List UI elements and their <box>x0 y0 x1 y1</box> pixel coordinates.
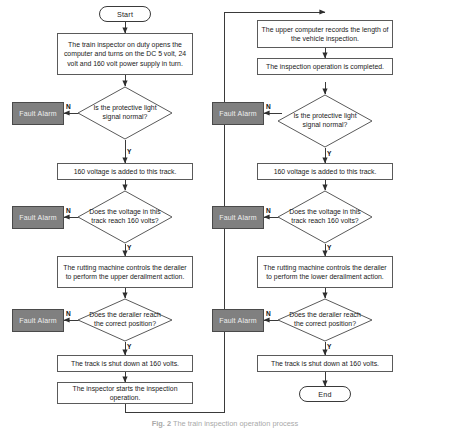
left-decision-voltage-yes-label: Y <box>127 244 131 251</box>
left-decision-light-signal: Is the protective light signal normal? <box>77 86 173 140</box>
left-step-start-inspection: The inspector starts the inspection oper… <box>57 382 193 404</box>
right-fault-alarm-3: Fault Alarm <box>212 309 264 332</box>
left-decision-derailer-label: Does the derailer reach the correct posi… <box>77 298 173 342</box>
right-step-add-160: 160 voltage is added to this track. <box>257 163 393 180</box>
right-decision-voltage-label: Does the voltage in this track reach 160… <box>277 190 373 244</box>
left-step-shut-down: The track is shut down at 160 volts. <box>57 355 193 372</box>
right-decision-voltage: Does the voltage in this track reach 160… <box>277 190 373 244</box>
right-fault-alarm-2: Fault Alarm <box>212 206 264 229</box>
right-decision-voltage-yes-label: Y <box>327 244 331 251</box>
left-step-add-160: 160 voltage is added to this track. <box>57 163 193 180</box>
left-decision-light-signal-no-label: N <box>66 103 71 110</box>
left-decision-derailer-no-label: N <box>66 310 71 317</box>
left-decision-derailer-yes-label: Y <box>127 343 131 350</box>
end-node: End <box>299 386 351 402</box>
right-decision-light-signal-no-label: N <box>266 103 271 110</box>
right-decision-voltage-no-label: N <box>266 207 271 214</box>
left-decision-light-signal-label: Is the protective light signal normal? <box>77 86 173 140</box>
right-step-shut-down: The track is shut down at 160 volts. <box>257 355 393 372</box>
left-fault-alarm-2: Fault Alarm <box>12 206 64 229</box>
right-decision-derailer-yes-label: Y <box>327 343 331 350</box>
left-step-rutting-machine: The rutting machine controls the deraile… <box>57 256 193 288</box>
right-decision-derailer: Does the derailer reach the correct posi… <box>277 298 373 342</box>
right-decision-light-signal-label: Is the protective light signal normal? <box>277 94 373 148</box>
right-step-inspection-completed: The inspection operation is completed. <box>257 58 393 75</box>
figure-caption-label: Fig. 2 <box>152 419 171 428</box>
left-decision-voltage-label: Does the voltage in this track reach 160… <box>77 190 173 244</box>
flowchart-canvas: Start The train inspector on duty opens … <box>0 0 450 428</box>
right-decision-light-signal-yes-label: Y <box>327 150 331 157</box>
left-decision-derailer: Does the derailer reach the correct posi… <box>77 298 173 342</box>
right-fault-alarm-1: Fault Alarm <box>212 102 264 125</box>
right-decision-light-signal: Is the protective light signal normal? <box>277 94 373 148</box>
right-decision-derailer-label: Does the derailer reach the correct posi… <box>277 298 373 342</box>
left-decision-light-signal-yes-label: Y <box>127 148 131 155</box>
right-step-rutting-machine: The rutting machine controls the deraile… <box>257 256 393 288</box>
right-step-record-length: The upper computer records the length of… <box>257 20 393 48</box>
figure-caption-text: The train inspection operation process <box>173 419 298 428</box>
right-decision-derailer-no-label: N <box>266 310 271 317</box>
start-node: Start <box>99 6 151 22</box>
left-decision-voltage-no-label: N <box>66 207 71 214</box>
left-step-power-on: The train inspector on duty opens the co… <box>57 33 193 75</box>
left-fault-alarm-3: Fault Alarm <box>12 309 64 332</box>
left-decision-voltage: Does the voltage in this track reach 160… <box>77 190 173 244</box>
left-fault-alarm-1: Fault Alarm <box>12 102 64 125</box>
figure-caption: Fig. 2 The train inspection operation pr… <box>0 419 450 428</box>
